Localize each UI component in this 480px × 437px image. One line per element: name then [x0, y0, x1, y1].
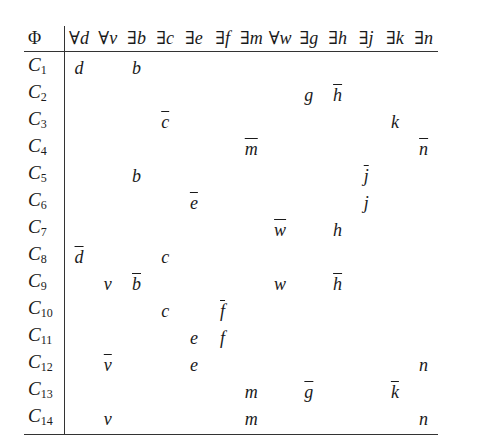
clause-index: 12: [41, 360, 53, 374]
table-cell: [64, 405, 93, 435]
table-cell: [295, 189, 324, 216]
table-cell: [64, 162, 93, 189]
table-cell: [266, 324, 295, 351]
table-cell: [323, 108, 352, 135]
literal: c: [161, 301, 169, 321]
table-cell: [93, 297, 122, 324]
table-cell: [295, 52, 324, 82]
clause-label: C5: [24, 162, 64, 189]
negated-literal: c: [161, 112, 169, 132]
table-cell: [266, 189, 295, 216]
quantifier-symbol: ∀: [98, 28, 109, 48]
table-cell: [266, 297, 295, 324]
table-cell: f: [208, 297, 237, 324]
table-cell: w: [266, 270, 295, 297]
table-cell: [180, 52, 209, 82]
table-cell: g: [295, 378, 324, 405]
table-cell: [93, 52, 122, 82]
column-header-c: ∃c: [151, 26, 180, 52]
clause-letter: C: [28, 270, 41, 291]
table-cell: [208, 135, 237, 162]
table-cell: [64, 297, 93, 324]
table-cell: [266, 405, 295, 435]
table-cell: f: [208, 324, 237, 351]
table-cell: [237, 297, 266, 324]
table-row: C2gh: [24, 81, 438, 108]
table-cell: [122, 81, 151, 108]
table-cell: [323, 162, 352, 189]
table-cell: n: [409, 135, 438, 162]
table-cell: [208, 351, 237, 378]
table-cell: [323, 297, 352, 324]
negated-literal: w: [274, 220, 286, 240]
table-row: C13mgk: [24, 378, 438, 405]
table-cell: [266, 108, 295, 135]
table-cell: [409, 270, 438, 297]
table-cell: [93, 324, 122, 351]
table-body: C1dbC2ghC3ckC4mnC5bjC6ejC7whC8dcC9vbwhC1…: [24, 52, 438, 435]
clause-index: 3: [41, 117, 47, 131]
negated-literal: k: [391, 382, 399, 402]
table-cell: d: [64, 243, 93, 270]
table-cell: [409, 297, 438, 324]
negated-literal: b: [132, 274, 141, 294]
formula-phi-label: Φ: [24, 26, 64, 52]
table-cell: [64, 216, 93, 243]
table-cell: [237, 81, 266, 108]
table-cell: [352, 52, 381, 82]
table-cell: j: [352, 189, 381, 216]
table-cell: [122, 324, 151, 351]
clause-letter: C: [28, 108, 41, 129]
table-cell: c: [151, 108, 180, 135]
table-row: C3ck: [24, 108, 438, 135]
table-cell: [409, 378, 438, 405]
clause-label: C8: [24, 243, 64, 270]
table-cell: g: [295, 81, 324, 108]
table-cell: h: [323, 270, 352, 297]
table-row: C5bj: [24, 162, 438, 189]
table-cell: b: [122, 162, 151, 189]
table-cell: [151, 189, 180, 216]
literal: v: [104, 274, 112, 294]
table-cell: m: [237, 378, 266, 405]
table-cell: [352, 135, 381, 162]
table-cell: [237, 189, 266, 216]
table-cell: [323, 351, 352, 378]
table-cell: [93, 162, 122, 189]
table-cell: [208, 189, 237, 216]
literal: n: [419, 355, 428, 375]
clause-label: C9: [24, 270, 64, 297]
variable-name: b: [137, 28, 146, 48]
negated-literal: h: [333, 274, 342, 294]
table-cell: [122, 189, 151, 216]
table-cell: [295, 351, 324, 378]
negated-literal: d: [75, 247, 84, 267]
table-cell: k: [381, 108, 410, 135]
table-row: C11ef: [24, 324, 438, 351]
table-cell: [409, 81, 438, 108]
table-cell: [237, 216, 266, 243]
clause-index: 6: [41, 198, 47, 212]
column-header-d: ∀d: [64, 26, 93, 52]
table-cell: b: [122, 52, 151, 82]
table-cell: [352, 270, 381, 297]
table-cell: [122, 378, 151, 405]
table-cell: [409, 324, 438, 351]
quantifier-symbol: ∃: [299, 28, 309, 48]
table-cell: [381, 52, 410, 82]
table-cell: e: [180, 351, 209, 378]
clause-letter: C: [28, 189, 41, 210]
literal: j: [364, 193, 369, 213]
table-cell: [151, 81, 180, 108]
table-cell: [295, 324, 324, 351]
table-cell: m: [237, 405, 266, 435]
clause-letter: C: [28, 216, 41, 237]
table-cell: [208, 270, 237, 297]
negated-literal: e: [190, 193, 198, 213]
table-cell: [295, 216, 324, 243]
clause-label: C7: [24, 216, 64, 243]
table-cell: [409, 108, 438, 135]
clause-letter: C: [28, 351, 41, 372]
quantifier-symbol: ∃: [328, 28, 338, 48]
clause-letter: C: [28, 297, 41, 318]
